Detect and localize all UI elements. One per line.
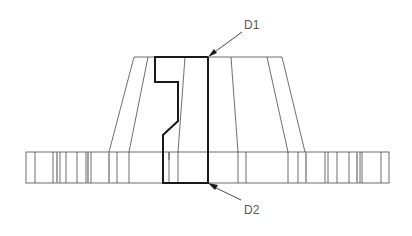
d2-leader-line [212,186,241,200]
d2-label: D2 [244,203,260,217]
flange-drawing: D1 D2 [0,0,412,236]
hub-line [267,57,288,152]
hub-line [178,57,185,152]
d1-label: D1 [244,18,260,32]
hub-line [129,57,148,152]
d1-callout: D1 [208,18,260,57]
d1-arrowhead-icon [208,49,217,57]
d2-callout: D2 [208,183,260,217]
d2-arrowhead-icon [208,183,218,190]
hub-line [231,57,238,152]
d1-leader-line [212,32,242,54]
section-profile [155,57,208,183]
